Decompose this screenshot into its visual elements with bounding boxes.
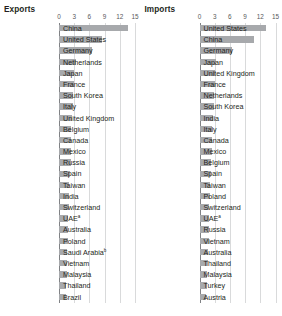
category-label: Belgium <box>204 157 256 168</box>
category-label: Vietnam <box>63 258 115 269</box>
imports-plot-area: United StatesChinaGermanyJapanUnited Kin… <box>200 23 276 303</box>
category-label: Canada <box>204 135 256 146</box>
exports-chart: 03691215 ChinaUnited StatesGermanyNether… <box>0 12 141 303</box>
category-label: Italy <box>204 124 256 135</box>
category-label: Spain <box>204 168 256 179</box>
exports-x-axis: 03691215 <box>59 12 135 23</box>
category-label: Netherlands <box>63 57 115 68</box>
footnote-marker: a <box>218 214 221 219</box>
category-label: United States <box>63 34 115 45</box>
category-label: South Korea <box>63 90 115 101</box>
category-label: Poland <box>204 191 256 202</box>
category-label: Russia <box>63 157 115 168</box>
x-tick-label: 9 <box>243 12 247 21</box>
category-label: India <box>204 113 256 124</box>
category-label: Mexico <box>204 146 256 157</box>
x-tick-label: 6 <box>88 12 92 21</box>
x-tick-label: 9 <box>103 12 107 21</box>
category-label: Russia <box>204 224 256 235</box>
category-label: UAEa <box>63 213 115 224</box>
category-label: Japan <box>204 57 256 68</box>
category-label: Turkey <box>204 280 256 291</box>
footnote-marker: b <box>104 247 107 252</box>
exports-title: Exports <box>0 0 141 12</box>
x-tick-label: 0 <box>198 12 202 21</box>
gridline <box>276 23 277 303</box>
category-label: Spain <box>63 168 115 179</box>
category-label: Switzerland <box>204 202 256 213</box>
category-label: Australia <box>63 224 115 235</box>
category-label: Germany <box>204 45 256 56</box>
category-label: United States <box>204 23 256 34</box>
category-label: Italy <box>63 101 115 112</box>
exports-plot-area: ChinaUnited StatesGermanyNetherlandsJapa… <box>59 23 135 303</box>
x-tick-label: 12 <box>257 12 264 21</box>
category-label: Belgium <box>63 124 115 135</box>
x-tick-label: 3 <box>213 12 217 21</box>
category-label: Brazil <box>63 292 115 303</box>
category-label: Austria <box>204 292 256 303</box>
x-tick-label: 3 <box>72 12 76 21</box>
category-label: United Kingdom <box>63 113 115 124</box>
category-label: Mexico <box>63 146 115 157</box>
category-label: Netherlands <box>204 90 256 101</box>
category-label: Taiwan <box>204 180 256 191</box>
imports-panel: Imports 03691215 United StatesChinaGerma… <box>141 0 282 316</box>
category-label: Saudi Arabiab <box>63 247 115 258</box>
category-label: France <box>63 79 115 90</box>
category-label: China <box>63 23 115 34</box>
category-label: China <box>204 34 256 45</box>
category-label: Poland <box>63 236 115 247</box>
category-label: France <box>204 79 256 90</box>
category-label: Thailand <box>63 280 115 291</box>
x-tick-label: 6 <box>228 12 232 21</box>
exports-category-labels: ChinaUnited StatesGermanyNetherlandsJapa… <box>63 23 115 303</box>
x-tick-label: 15 <box>131 12 138 21</box>
category-label: Vietnam <box>204 236 256 247</box>
imports-title: Imports <box>141 0 282 12</box>
category-label: UAEa <box>204 213 256 224</box>
exports-panel: Exports 03691215 ChinaUnited StatesGerma… <box>0 0 141 316</box>
imports-chart: 03691215 United StatesChinaGermanyJapanU… <box>141 12 282 303</box>
gridline <box>135 23 136 303</box>
category-label: Malaysia <box>204 269 256 280</box>
x-tick-label: 0 <box>57 12 61 21</box>
category-label: United Kingdom <box>204 68 256 79</box>
category-label: Thailand <box>204 258 256 269</box>
x-tick-label: 12 <box>116 12 123 21</box>
footnote-marker: a <box>78 214 81 219</box>
category-label: Australia <box>204 247 256 258</box>
category-label: Taiwan <box>63 180 115 191</box>
category-label: South Korea <box>204 101 256 112</box>
category-label: Canada <box>63 135 115 146</box>
category-label: India <box>63 191 115 202</box>
category-label: Malaysia <box>63 269 115 280</box>
x-tick-label: 15 <box>272 12 279 21</box>
category-label: Switzerland <box>63 202 115 213</box>
category-label: Japan <box>63 68 115 79</box>
imports-x-axis: 03691215 <box>200 12 276 23</box>
category-label: Germany <box>63 45 115 56</box>
dual-bar-chart-figure: Exports 03691215 ChinaUnited StatesGerma… <box>0 0 281 316</box>
imports-category-labels: United StatesChinaGermanyJapanUnited Kin… <box>204 23 256 303</box>
